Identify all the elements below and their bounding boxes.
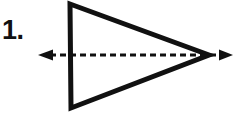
figure-container: 1. xyxy=(0,0,235,115)
figure-drawing-canvas xyxy=(0,0,235,115)
right-arrowhead-icon xyxy=(219,50,233,61)
left-arrowhead-icon xyxy=(38,50,53,61)
